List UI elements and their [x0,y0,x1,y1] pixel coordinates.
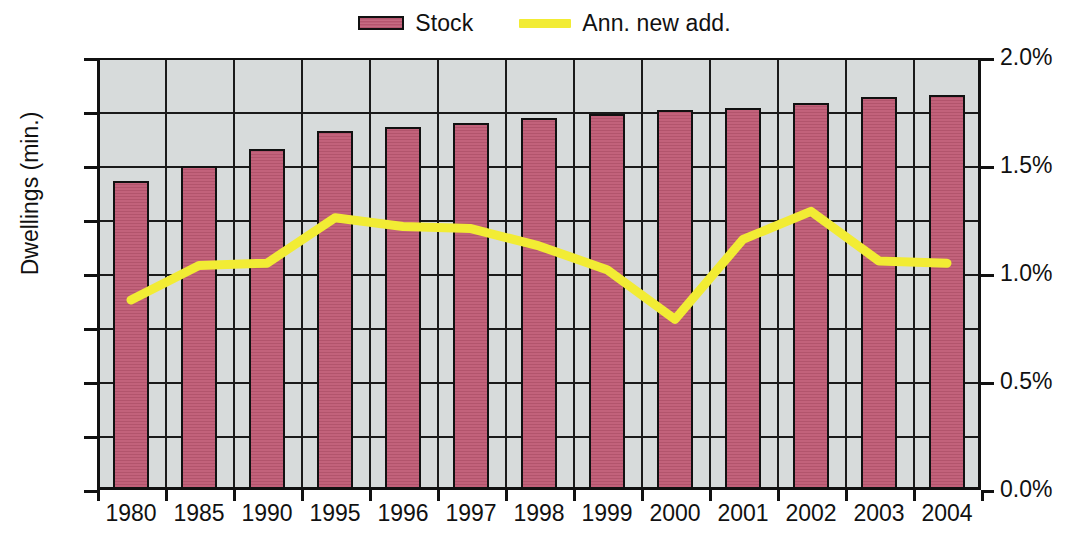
y2-tick-label-2-0: 2.0% [1000,46,1089,69]
line-series-ann-new-add [97,58,981,490]
x-tick-mark-4 [369,490,372,501]
y2-tick-mark-1-0 [981,274,994,277]
y2-tick-label-1-0: 1.0% [1000,262,1089,285]
y2-tick-mark-1-5 [981,166,994,169]
chart-figure: Stock Ann. new add. Dwellings (min.) [0,0,1089,542]
y-tick-mark-25 [84,436,97,439]
x-tick-mark-9 [709,490,712,501]
x-tick-mark-11 [845,490,848,501]
y-tick-mark-200 [84,58,97,61]
y2-tick-label-0-0: 0.0% [1000,478,1089,501]
chart-legend: Stock Ann. new add. [0,6,1089,40]
x-tick-mark-8 [641,490,644,501]
x-tick-mark-12 [913,490,916,501]
x-tick-mark-1 [165,490,168,501]
x-tick-mark-0 [97,490,100,501]
y-tick-mark-125 [84,220,97,223]
plot-area [97,58,981,490]
y2-tick-mark-2-0 [981,58,994,61]
y-axis-left-title: Dwellings (min.) [17,0,44,404]
legend-label-ann-new-add: Ann. new add. [582,12,730,35]
y-tick-mark-100 [84,274,97,277]
x-tick-mark-10 [777,490,780,501]
legend-bar-swatch-icon [358,16,404,30]
y-tick-mark-0 [84,490,97,493]
x-tick-mark-5 [437,490,440,501]
x-tick-mark-3 [301,490,304,501]
y2-tick-label-1-5: 1.5% [1000,154,1089,177]
y2-tick-label-0-5: 0.5% [1000,370,1089,393]
y2-tick-mark-0-5 [981,382,994,385]
x-tick-mark-2 [233,490,236,501]
y-tick-mark-75 [84,328,97,331]
legend-line-swatch-icon [519,19,571,28]
y-tick-mark-175 [84,112,97,115]
legend-label-stock: Stock [415,12,473,35]
y-tick-mark-150 [84,166,97,169]
legend-entry-ann-new-add: Ann. new add. [519,12,730,35]
x-tick-mark-13 [981,490,984,501]
x-tick-mark-7 [573,490,576,501]
x-tick-mark-6 [505,490,508,501]
x-tick-label-2004: 2004 [902,502,992,525]
y-tick-mark-50 [84,382,97,385]
legend-entry-stock: Stock [358,12,473,35]
